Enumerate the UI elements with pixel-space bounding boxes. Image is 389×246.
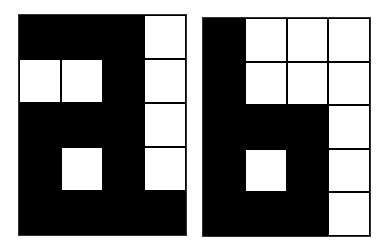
empty-cell-r3-c3 [144,147,186,191]
figure-canvas [0,0,389,246]
filled-cell-r3-c2 [287,149,329,193]
filled-cell-r0-c0 [203,18,245,62]
empty-cell-r3-c3 [328,149,370,193]
empty-cell-r2-c3 [328,105,370,149]
filled-cell-r2-c2 [103,103,145,147]
empty-cell-r4-c3 [328,192,370,236]
filled-cell-r0-c0 [19,15,61,59]
empty-cell-r0-c2 [287,18,329,62]
filled-cell-r2-c0 [203,105,245,149]
filled-cell-r4-c1 [61,191,103,235]
empty-cell-r0-c3 [328,18,370,62]
empty-cell-r1-c1 [245,62,287,106]
filled-cell-r2-c1 [245,105,287,149]
empty-cell-r1-c3 [144,59,186,103]
filled-cell-r4-c2 [103,191,145,235]
empty-cell-r1-c3 [328,62,370,106]
filled-cell-r1-c2 [103,59,145,103]
empty-cell-r3-c1 [61,147,103,191]
filled-cell-r2-c1 [61,103,103,147]
filled-cell-r0-c2 [103,15,145,59]
filled-cell-r3-c2 [103,147,145,191]
empty-cell-r2-c3 [144,103,186,147]
filled-cell-r4-c1 [245,192,287,236]
glyph-grid-letter-b [202,17,371,237]
filled-cell-r3-c0 [19,147,61,191]
filled-cell-r2-c2 [287,105,329,149]
empty-cell-r3-c1 [245,149,287,193]
filled-cell-r1-c0 [203,62,245,106]
empty-cell-r0-c3 [144,15,186,59]
filled-cell-r3-c0 [203,149,245,193]
filled-cell-r0-c1 [61,15,103,59]
filled-cell-r4-c2 [287,192,329,236]
empty-cell-r1-c1 [61,59,103,103]
empty-cell-r1-c2 [287,62,329,106]
filled-cell-r4-c3 [144,191,186,235]
empty-cell-r0-c1 [245,18,287,62]
empty-cell-r1-c0 [19,59,61,103]
filled-cell-r4-c0 [19,191,61,235]
glyph-grid-letter-a [18,14,187,236]
filled-cell-r2-c0 [19,103,61,147]
filled-cell-r4-c0 [203,192,245,236]
